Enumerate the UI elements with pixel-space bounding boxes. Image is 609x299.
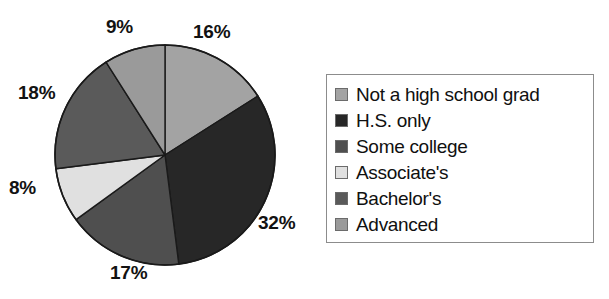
- legend-item-not-a-high-school-grad[interactable]: Not a high school grad: [335, 81, 593, 107]
- pct-label-hs-only: 32%: [258, 213, 295, 232]
- legend-swatch-icon: [335, 88, 348, 101]
- legend-item-some-college[interactable]: Some college: [335, 133, 593, 159]
- legend-item-label: H.S. only: [356, 111, 430, 130]
- pct-label-some-college: 17%: [110, 263, 147, 282]
- legend-item-associates[interactable]: Associate's: [335, 159, 593, 185]
- pie-chart-figure: 16% 32% 17% 8% 18% 9% Not a high school …: [0, 0, 609, 299]
- pie-chart-area: 16% 32% 17% 8% 18% 9%: [0, 0, 320, 299]
- legend-item-label: Associate's: [356, 163, 448, 182]
- legend: Not a high school grad H.S. only Some co…: [326, 74, 594, 243]
- legend-swatch-icon: [335, 218, 348, 231]
- pie-chart-svg: [0, 0, 320, 299]
- legend-swatch-icon: [335, 114, 348, 127]
- legend-item-label: Not a high school grad: [356, 85, 540, 104]
- legend-swatch-icon: [335, 140, 348, 153]
- legend-item-label: Some college: [356, 137, 468, 156]
- pct-label-not-a-high-school-grad: 16%: [193, 22, 230, 41]
- legend-item-advanced[interactable]: Advanced: [335, 211, 593, 237]
- legend-item-bachelors[interactable]: Bachelor's: [335, 185, 593, 211]
- pct-label-associates: 8%: [9, 178, 36, 197]
- pie-slices-group: [55, 45, 275, 265]
- legend-item-label: Bachelor's: [356, 189, 441, 208]
- pct-label-bachelors: 18%: [18, 83, 55, 102]
- pct-label-advanced: 9%: [106, 17, 133, 36]
- legend-swatch-icon: [335, 192, 348, 205]
- legend-item-hs-only[interactable]: H.S. only: [335, 107, 593, 133]
- legend-item-label: Advanced: [356, 215, 438, 234]
- legend-swatch-icon: [335, 166, 348, 179]
